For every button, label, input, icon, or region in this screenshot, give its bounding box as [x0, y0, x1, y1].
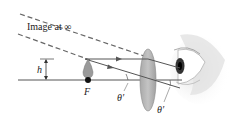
magnifier-diagram: Image at ∞ h F θ′	[0, 0, 233, 120]
central-ray	[85, 59, 180, 88]
height-marker: h	[37, 59, 54, 80]
parallel-ray	[85, 57, 180, 69]
arrow-icon	[107, 65, 114, 70]
angle-2-label: θ′	[157, 104, 165, 115]
focal-point-dot	[85, 77, 91, 83]
arrow-down-icon	[44, 76, 48, 80]
image-at-infinity-label: Image at ∞	[27, 21, 71, 32]
height-label: h	[37, 64, 42, 75]
eye	[170, 34, 230, 104]
dashed-ray-lower	[18, 34, 90, 60]
object	[83, 59, 93, 78]
angle-1: θ′	[117, 74, 128, 103]
focal-point-label: F	[83, 86, 91, 97]
arrow-icon	[116, 57, 122, 62]
arrow-up-icon	[44, 59, 48, 63]
angle-1-label: θ′	[117, 92, 125, 103]
angle-2: θ′	[157, 80, 171, 115]
